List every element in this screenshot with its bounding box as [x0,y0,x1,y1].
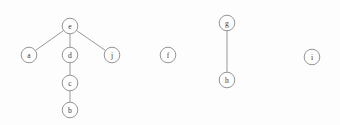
graph-edge-e-a [35,31,63,51]
graph-svg: eadjcbfghi [0,0,340,125]
node-circle-c[interactable] [62,75,78,91]
graph-node-a[interactable]: a [21,47,37,63]
graph-node-e[interactable]: e [62,18,78,34]
graph-node-g[interactable]: g [219,15,235,31]
node-circle-j[interactable] [104,47,120,63]
graph-edge-e-j [76,30,105,50]
graph-node-b[interactable]: b [62,102,78,118]
node-circle-i[interactable] [304,49,320,65]
node-circle-h[interactable] [219,72,235,88]
graph-node-c[interactable]: c [62,75,78,91]
graph-node-i[interactable]: i [304,49,320,65]
node-layer: eadjcbfghi [21,15,320,118]
node-circle-b[interactable] [62,102,78,118]
graph-node-h[interactable]: h [219,72,235,88]
node-circle-a[interactable] [21,47,37,63]
node-circle-e[interactable] [62,18,78,34]
graph-node-f[interactable]: f [160,47,176,63]
graph-diagram: eadjcbfghi [0,0,340,125]
graph-node-d[interactable]: d [62,47,78,63]
node-circle-d[interactable] [62,47,78,63]
graph-node-j[interactable]: j [104,47,120,63]
edge-layer [35,30,227,102]
node-circle-g[interactable] [219,15,235,31]
node-circle-f[interactable] [160,47,176,63]
